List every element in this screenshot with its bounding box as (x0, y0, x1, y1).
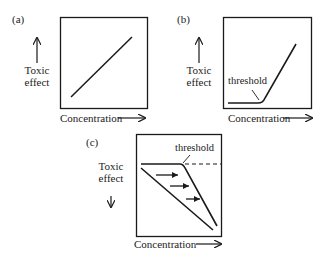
curve-linear-increasing (71, 37, 132, 97)
y-axis-label-c: Toxic effect (91, 160, 131, 184)
panel-label-c: (c) (86, 136, 98, 148)
panel-label-a: (a) (12, 13, 24, 25)
x-axis-label-b: Concentration (228, 112, 290, 124)
y-axis-label-a: Toxic effect (17, 64, 57, 88)
x-axis-label-a: Concentration (60, 112, 122, 124)
panel-label-b: (b) (177, 13, 190, 25)
y-axis-label-b: Toxic effect (179, 64, 219, 88)
x-axis-label-c: Concentration (134, 238, 196, 250)
curve-threshold-increasing (228, 44, 296, 103)
diagram-canvas (0, 0, 327, 257)
threshold-annotation-b: threshold (228, 75, 267, 87)
threshold-pointer (183, 155, 190, 163)
curve-threshold-decreasing (141, 164, 217, 226)
threshold-pointer (252, 90, 259, 100)
threshold-annotation-c: threshold (175, 142, 214, 154)
